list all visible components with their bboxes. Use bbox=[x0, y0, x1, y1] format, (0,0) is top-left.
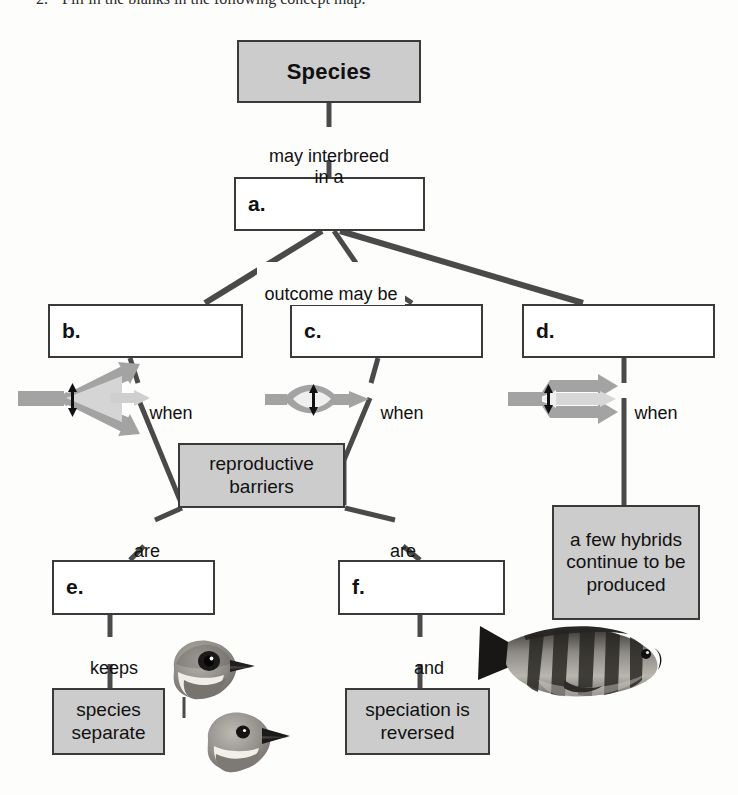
node-speciation-reversed: speciation is reversed bbox=[345, 688, 490, 755]
node-b-label: b. bbox=[62, 319, 81, 344]
node-c-label: c. bbox=[304, 319, 322, 344]
concept-map-page: 2.Fill in the blanks in the following co… bbox=[0, 0, 738, 795]
node-d-label: d. bbox=[536, 319, 555, 344]
edge-label-outcome-may-be: outcome may be bbox=[257, 262, 405, 305]
edge-label-text: and bbox=[414, 658, 444, 678]
bird-photo-lower bbox=[188, 700, 292, 780]
edge-label-are-e: are bbox=[123, 519, 171, 562]
edge-label-and: and bbox=[396, 636, 444, 679]
edge-label-may-interbreed-in-a: may interbreed in a bbox=[249, 124, 409, 189]
node-f[interactable]: f. bbox=[338, 560, 505, 615]
edge-label-text: when bbox=[149, 403, 192, 423]
node-species: Species bbox=[237, 40, 421, 103]
partial-split-arrows-icon bbox=[508, 370, 630, 428]
node-a-few-hybrids: a few hybrids continue to be produced bbox=[552, 505, 700, 620]
edge-label-text: may interbreed in a bbox=[269, 146, 389, 188]
bird-photo-upper bbox=[154, 628, 258, 708]
lens-loop-arrow-icon bbox=[265, 378, 375, 422]
node-b[interactable]: b. bbox=[48, 304, 243, 358]
edge-label-text: are bbox=[134, 541, 160, 561]
node-species-separate: species separate bbox=[52, 688, 165, 755]
edge-label-when-b: when bbox=[143, 381, 199, 424]
edge-label-text: when bbox=[634, 403, 677, 423]
edge-label-text: keeps bbox=[90, 658, 138, 678]
edge-label-are-f: are bbox=[379, 519, 427, 562]
node-e[interactable]: e. bbox=[52, 560, 215, 615]
node-d[interactable]: d. bbox=[522, 304, 715, 358]
node-reproductive-barriers-label: reproductive barriers bbox=[180, 453, 343, 498]
edge-label-text: outcome may be bbox=[264, 284, 397, 304]
diverging-arrows-icon bbox=[18, 362, 154, 438]
edge-label-when-d: when bbox=[628, 381, 684, 424]
node-species-label: Species bbox=[287, 59, 372, 85]
node-e-label: e. bbox=[66, 575, 84, 600]
cichlid-fish-photo bbox=[478, 618, 670, 730]
node-reproductive-barriers: reproductive barriers bbox=[178, 443, 345, 508]
edge-label-text: are bbox=[390, 541, 416, 561]
node-species-separate-label: species separate bbox=[54, 699, 163, 744]
edge-label-text: when bbox=[380, 403, 423, 423]
node-f-label: f. bbox=[352, 575, 365, 600]
node-speciation-reversed-label: speciation is reversed bbox=[347, 699, 488, 744]
node-c[interactable]: c. bbox=[290, 304, 483, 358]
node-a-label: a. bbox=[248, 192, 266, 217]
edge-label-keeps: keeps bbox=[84, 636, 138, 679]
node-a-few-hybrids-label: a few hybrids continue to be produced bbox=[554, 529, 698, 596]
edge-label-when-c: when bbox=[374, 381, 430, 424]
